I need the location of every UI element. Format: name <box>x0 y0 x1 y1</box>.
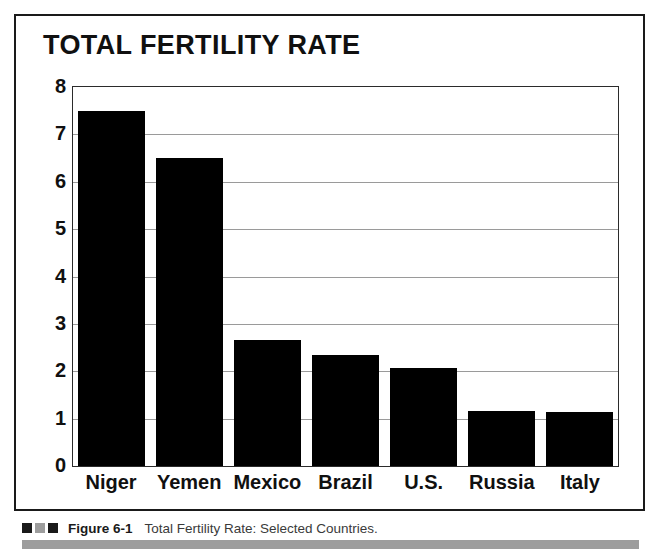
x-tick-label: Russia <box>463 471 541 494</box>
y-tick-label: 5 <box>55 218 66 238</box>
figure-caption: Figure 6-1 Total Fertility Rate: Selecte… <box>22 519 378 537</box>
x-tick-label: U.S. <box>385 471 463 494</box>
bar-slot <box>462 87 540 466</box>
y-tick-label: 8 <box>55 76 66 96</box>
x-tick-label: Mexico <box>228 471 306 494</box>
bar <box>312 355 379 466</box>
bar-slot <box>73 87 151 466</box>
x-tick-label: Italy <box>541 471 619 494</box>
bar <box>546 412 613 466</box>
x-tick-label: Yemen <box>150 471 228 494</box>
figure-card: TOTAL FERTILITY RATE 012345678 NigerYeme… <box>14 14 645 511</box>
bar-slot <box>540 87 618 466</box>
caption-figure-number: Figure 6-1 <box>68 521 133 536</box>
caption-description: Total Fertility Rate: Selected Countries… <box>145 521 378 536</box>
bar <box>390 368 457 466</box>
caption-marker <box>22 523 58 533</box>
bar-slot <box>307 87 385 466</box>
bottom-rule <box>22 540 639 549</box>
bar <box>234 340 301 466</box>
y-tick-label: 1 <box>55 408 66 428</box>
y-tick-label: 7 <box>55 123 66 143</box>
square-dark-icon <box>22 523 32 533</box>
bar-slot <box>151 87 229 466</box>
y-tick-label: 6 <box>55 171 66 191</box>
square-gray-icon <box>35 523 45 533</box>
y-tick-label: 4 <box>55 266 66 286</box>
bar <box>468 411 535 466</box>
y-axis: 012345678 <box>30 86 66 467</box>
bar-slot <box>384 87 462 466</box>
bar <box>78 111 145 466</box>
plot-area <box>72 86 619 467</box>
bar <box>156 158 223 466</box>
x-tick-label: Brazil <box>306 471 384 494</box>
chart-title: TOTAL FERTILITY RATE <box>43 30 361 61</box>
square-dark-icon <box>48 523 58 533</box>
x-tick-label: Niger <box>72 471 150 494</box>
bar-series <box>73 87 618 466</box>
y-tick-label: 0 <box>55 455 66 475</box>
y-tick-label: 3 <box>55 313 66 333</box>
figure-page: TOTAL FERTILITY RATE 012345678 NigerYeme… <box>0 0 659 555</box>
bar-slot <box>229 87 307 466</box>
y-tick-label: 2 <box>55 360 66 380</box>
x-axis: NigerYemenMexicoBrazilU.S.RussiaItaly <box>72 471 619 494</box>
